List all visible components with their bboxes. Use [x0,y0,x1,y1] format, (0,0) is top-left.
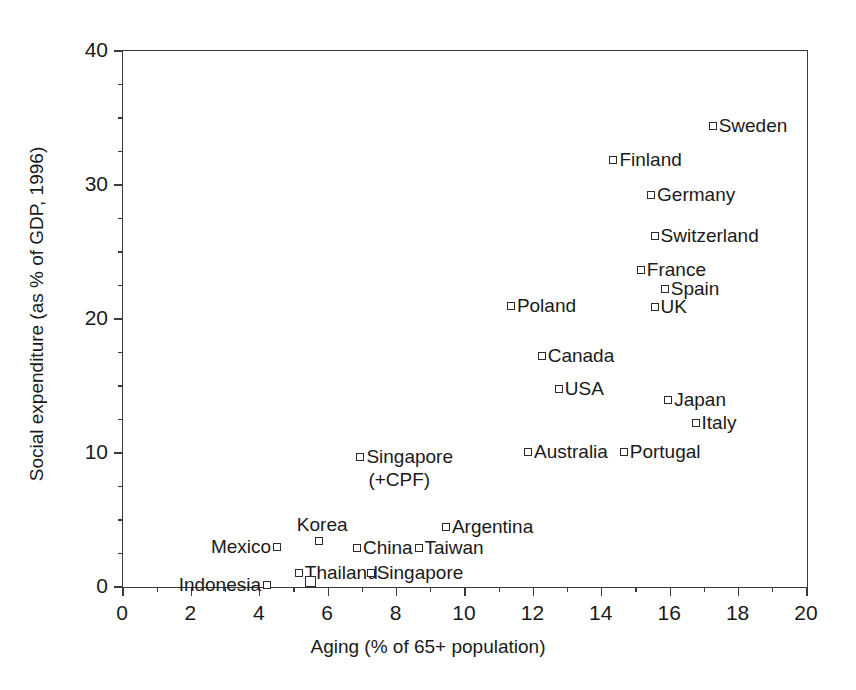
data-point-label: Taiwan [425,538,484,558]
data-point-label: France [647,260,706,280]
x-axis-tick-label: 2 [160,602,220,623]
square-marker-icon [620,448,628,456]
square-marker-icon [295,569,303,577]
y-axis-tick-label: 40 [85,39,108,60]
data-point: Italy [692,413,737,433]
x-axis-tick-label: 6 [297,602,357,623]
data-point-label: Germany [657,185,735,205]
square-marker-icon [524,448,532,456]
data-point-sublabel: (+CPF) [368,470,430,490]
data-point: France [637,260,706,280]
x-axis-tick-label: 8 [366,602,426,623]
data-point-label: Switzerland [661,226,759,246]
square-marker-icon [651,232,659,240]
data-point: Australia [524,442,608,462]
square-marker-icon [651,303,659,311]
square-marker-icon [637,266,645,274]
x-axis-minor-tick [635,587,636,592]
y-axis-tick-label: 30 [85,173,108,194]
x-axis-minor-tick [293,587,294,592]
data-point: UK [651,297,687,317]
x-axis-tick-label: 4 [229,602,289,623]
y-axis-minor-tick [118,352,123,353]
x-axis-minor-tick [157,587,158,592]
y-axis-tick-label: 20 [85,307,108,328]
data-point: Canada [538,346,615,366]
square-marker-icon [273,543,281,551]
square-marker-icon [367,569,375,577]
x-axis-minor-tick [362,587,363,592]
x-axis-minor-tick [430,587,431,592]
square-marker-icon [305,576,316,587]
data-point: Singapore [367,563,464,583]
y-axis-tick [114,50,123,51]
data-point-label: Portugal [630,442,701,462]
square-marker-icon [353,544,361,552]
data-point-label: Indonesia [179,575,261,595]
x-axis-tick [601,587,602,596]
y-axis-minor-tick [118,218,123,219]
data-point-label: Korea [297,515,348,535]
data-point: Switzerland [651,226,759,246]
data-point-label: Poland [517,296,576,316]
y-axis-minor-tick [118,519,123,520]
data-point-label: Italy [702,413,737,433]
y-axis-tick [114,318,123,319]
square-marker-icon [647,191,655,199]
square-marker-icon [415,544,423,552]
data-point: Germany [647,185,735,205]
data-point-label: USA [565,379,604,399]
data-point: Mexico [211,537,281,557]
x-axis-title: Aging (% of 65+ population) [0,636,856,658]
x-axis-tick [738,587,739,596]
square-marker-icon [263,581,271,589]
scatter-chart: 010203040 02468101214161820 SwedenFinlan… [0,0,856,690]
data-point: Finland [609,150,681,170]
y-axis-minor-tick [118,486,123,487]
square-marker-icon [507,302,515,310]
x-axis-tick [464,587,465,596]
y-axis-minor-tick [118,84,123,85]
y-axis-minor-tick [118,385,123,386]
x-axis-tick [122,587,123,596]
y-axis-tick [114,184,123,185]
x-axis-minor-tick [499,587,500,592]
square-marker-icon [692,419,700,427]
x-axis-tick-label: 18 [708,602,768,623]
x-axis-tick-label: 0 [92,602,152,623]
plot-area [122,50,808,588]
x-axis-tick [328,587,329,596]
data-point-label: Sweden [719,116,788,136]
y-axis-tick-label: 10 [85,441,108,462]
data-point-label: Singapore [366,447,453,467]
x-axis-minor-tick [567,587,568,592]
data-point: Indonesia [179,575,271,595]
y-axis-minor-tick [118,151,123,152]
data-point-label: Japan [674,390,726,410]
square-marker-icon [538,352,546,360]
x-axis-minor-tick [772,587,773,592]
square-marker-icon [555,385,563,393]
y-axis-minor-tick [118,251,123,252]
x-axis-tick [533,587,534,596]
data-point-label: Singapore [377,563,464,583]
x-axis-tick [670,587,671,596]
x-axis-tick [396,587,397,596]
data-point [315,537,323,545]
y-axis-minor-tick [118,285,123,286]
data-point: China [353,538,413,558]
square-marker-icon [609,156,617,164]
x-axis-minor-tick [704,587,705,592]
data-point: Taiwan [415,538,484,558]
data-point: Sweden [709,116,788,136]
y-axis-title: Social expenditure (as % of GDP, 1996) [26,14,48,614]
x-axis-tick-label: 16 [639,602,699,623]
data-point-label: Mexico [211,537,271,557]
data-point-label: China [363,538,413,558]
square-marker-icon [315,537,323,545]
square-marker-icon [664,396,672,404]
square-marker-icon [356,453,364,461]
data-point-label: Canada [548,346,615,366]
data-point-label: UK [661,297,687,317]
data-point [305,576,316,587]
